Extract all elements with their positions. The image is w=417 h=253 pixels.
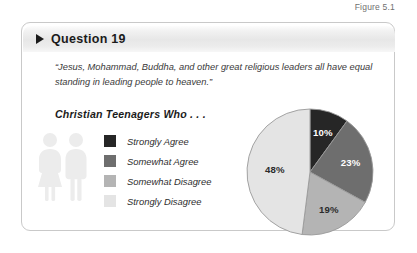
legend-item-somewhat-agree: Somewhat Agree bbox=[104, 151, 211, 171]
legend-item-somewhat-disagree: Somewhat Disagree bbox=[104, 171, 211, 191]
question-quote: “Jesus, Mohammad, Buddha, and other grea… bbox=[55, 60, 373, 89]
pie-slice-label: 19% bbox=[319, 204, 339, 215]
triangle-right-icon bbox=[36, 34, 44, 44]
card-header: Question 19 bbox=[23, 26, 395, 52]
pie-slice-label: 23% bbox=[341, 157, 361, 168]
page-title: Question 19 bbox=[51, 32, 126, 46]
two-people-icon bbox=[30, 131, 92, 207]
pie-chart: 10%23%19%48% bbox=[240, 102, 385, 251]
legend-swatch-icon bbox=[104, 135, 116, 147]
legend-swatch-icon bbox=[104, 195, 116, 207]
pie-slice-label: 10% bbox=[313, 127, 333, 138]
chart-subheading: Christian Teenagers Who . . . bbox=[55, 108, 206, 120]
legend-swatch-icon bbox=[104, 155, 116, 167]
pie-slice-label: 48% bbox=[265, 164, 285, 175]
figure-caption: Figure 5.1 bbox=[355, 2, 395, 12]
chart-legend: Strongly Agree Somewhat Agree Somewhat D… bbox=[104, 131, 211, 211]
legend-item-strongly-disagree: Strongly Disagree bbox=[104, 191, 211, 211]
legend-item-label: Somewhat Agree bbox=[127, 156, 199, 167]
legend-item-label: Strongly Agree bbox=[127, 136, 189, 147]
legend-swatch-icon bbox=[104, 175, 116, 187]
legend-item-label: Strongly Disagree bbox=[127, 196, 202, 207]
legend-item-label: Somewhat Disagree bbox=[127, 176, 211, 187]
legend-item-strongly-agree: Strongly Agree bbox=[104, 131, 211, 151]
